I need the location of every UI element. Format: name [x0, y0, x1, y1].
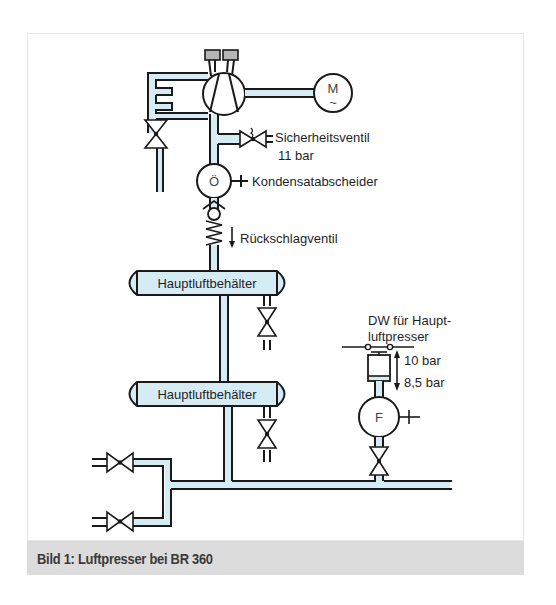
- motor-symbol: M: [328, 81, 339, 96]
- motor: M ~: [314, 74, 352, 112]
- safety-valve-label: Sicherheitsventil: [275, 130, 370, 145]
- condensate-separator: Ö Kondensatabscheider: [197, 164, 378, 198]
- figure-caption-bar: Bild 1: Luftpresser bei BR 360: [27, 541, 524, 575]
- safety-valve-setting: 11 bar: [278, 148, 315, 163]
- pipe-segment: [210, 245, 218, 271]
- filter: F: [359, 397, 420, 437]
- branch-valve-upper[interactable]: [107, 453, 133, 472]
- intercooler-pipe: [148, 73, 208, 119]
- check-valve-label: Rückschlagventil: [240, 231, 338, 246]
- pipe-segment: [375, 381, 383, 398]
- drain-valve-icon[interactable]: [258, 308, 276, 336]
- pressure-lower: 8,5 bar: [404, 375, 445, 390]
- main-supply-line: [170, 481, 452, 489]
- safety-valve-branch: [218, 134, 240, 144]
- pressure-switch: DW für Haupt- luftpresser 10 bar 8,5 bar: [342, 313, 451, 391]
- main-vertical-pipe: [210, 114, 218, 166]
- main-air-tank-1: Hauptluftbehälter: [130, 271, 285, 295]
- filter-symbol: F: [375, 410, 383, 425]
- motor-shaft: [245, 89, 315, 97]
- check-valve[interactable]: Rückschlagventil: [203, 201, 338, 248]
- tank-2-label: Hauptluftbehälter: [157, 387, 257, 402]
- pneumatic-diagram: .ln { stroke: #1a1a1a; stroke-width: 2; …: [0, 0, 556, 605]
- main-air-tank-2: Hauptluftbehälter: [130, 382, 285, 406]
- valve-icon[interactable]: [145, 120, 167, 148]
- pressure-upper: 10 bar: [404, 353, 442, 368]
- pipe-segment: [220, 296, 228, 382]
- pipe-segment: [224, 407, 232, 487]
- compressor-icon: [203, 73, 245, 115]
- branch-valve-lower[interactable]: [107, 512, 133, 531]
- ac-symbol: ~: [329, 95, 337, 110]
- figure-caption: Bild 1: Luftpresser bei BR 360: [37, 550, 213, 567]
- pressure-switch-label-1: DW für Haupt-: [368, 313, 451, 328]
- separator-symbol: Ö: [209, 174, 219, 189]
- pressure-switch-label-2: luftpresser: [368, 329, 429, 344]
- isolation-valve-icon[interactable]: [370, 447, 388, 475]
- tank-1-label: Hauptluftbehälter: [157, 276, 257, 291]
- separator-label: Kondensatabscheider: [252, 174, 378, 189]
- safety-valve[interactable]: Sicherheitsventil 11 bar: [240, 128, 370, 163]
- intake-filter-icons: [205, 50, 238, 76]
- drain-valve-icon[interactable]: [258, 420, 276, 448]
